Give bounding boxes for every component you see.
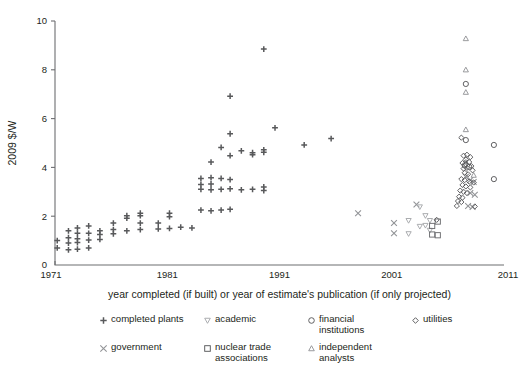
data-point: [454, 203, 459, 208]
data-point: [406, 232, 411, 237]
legend-row-1: completed plants academic financial inst…: [96, 314, 516, 335]
legend-item-academic[interactable]: academic: [200, 314, 304, 326]
data-point: [272, 125, 278, 131]
data-point: [198, 182, 204, 188]
data-point: [355, 210, 361, 216]
legend-item-nuclear-trade-associations[interactable]: nuclear trade associations: [200, 342, 304, 363]
x-tick-label: 1971: [40, 269, 61, 280]
x-tick-label: 2001: [381, 269, 402, 280]
data-point: [218, 186, 224, 192]
data-point: [155, 220, 161, 226]
data-point: [227, 131, 233, 137]
data-point: [471, 173, 476, 178]
x-glyph: [98, 343, 109, 354]
data-point: [110, 220, 116, 226]
triangle-down-glyph: [202, 315, 213, 326]
data-point: [167, 210, 173, 216]
data-point: [189, 225, 195, 231]
data-point: [430, 223, 435, 228]
data-point: [491, 142, 496, 147]
legend-label: academic: [215, 314, 256, 325]
data-point: [423, 223, 428, 228]
data-point: [167, 226, 173, 232]
data-point: [463, 90, 468, 95]
data-point: [417, 224, 422, 229]
data-point: [218, 144, 224, 150]
data-point: [227, 177, 233, 183]
data-point: [328, 136, 334, 142]
data-point: [227, 93, 233, 99]
data-point: [178, 224, 184, 230]
diamond-shape: [413, 318, 419, 324]
triangle-up-shape: [309, 346, 315, 351]
data-point: [463, 67, 468, 72]
data-point: [301, 142, 307, 148]
x-axis-title: year completed (if built) or year of est…: [108, 288, 451, 300]
data-point: [463, 127, 468, 132]
legend-inner: completed plants academic financial inst…: [96, 314, 516, 370]
plus-shape: [100, 317, 106, 323]
data-point: [110, 231, 116, 237]
data-point: [250, 186, 256, 192]
series-government: [355, 174, 478, 236]
x-shape: [100, 345, 106, 351]
data-point: [124, 228, 130, 234]
circle-icon: [304, 314, 319, 326]
legend-item-financial-institutions[interactable]: financial institutions: [304, 314, 408, 335]
data-point: [227, 206, 233, 212]
legend-label: completed plants: [111, 314, 184, 325]
y-tick-label: 4: [42, 162, 47, 173]
data-point: [66, 228, 72, 234]
data-point: [75, 225, 81, 231]
data-point: [198, 175, 204, 181]
legend-item-utilities[interactable]: utilities: [408, 314, 508, 326]
data-point: [75, 236, 81, 242]
plus-glyph: [98, 315, 109, 326]
data-point: [463, 81, 468, 86]
data-point: [463, 36, 468, 41]
data-point: [86, 237, 92, 243]
y-tick-label: 10: [36, 15, 47, 26]
data-point: [66, 240, 72, 246]
data-point: [137, 220, 143, 226]
data-point: [208, 175, 214, 181]
series-completed-plants: [54, 46, 334, 253]
data-point: [218, 207, 224, 213]
legend-item-government[interactable]: government: [96, 342, 200, 354]
x-tick-label: 2011: [498, 269, 518, 280]
square-glyph: [202, 343, 213, 354]
triangle-up-icon: [304, 342, 319, 354]
triangle-down-shape: [205, 318, 211, 323]
axis-lines: [55, 21, 504, 265]
data-point: [155, 226, 161, 232]
legend-item-independent-analysts[interactable]: independent analysts: [304, 342, 408, 363]
data-point: [218, 175, 224, 181]
data-point: [208, 159, 214, 165]
legend-label: nuclear trade associations: [215, 342, 271, 363]
y-tick-label: 6: [42, 113, 47, 124]
data-point: [491, 177, 496, 182]
data-point: [417, 205, 422, 210]
data-point: [198, 207, 204, 213]
square-icon: [200, 342, 215, 354]
axes: [51, 21, 504, 265]
data-point: [208, 187, 214, 193]
circle-shape: [309, 318, 315, 324]
data-point: [427, 219, 432, 224]
legend-item-completed-plants[interactable]: completed plants: [96, 314, 200, 326]
data-point: [75, 230, 81, 236]
diamond-icon: [408, 314, 423, 326]
axis-labels: 024681019711981199120012011year complete…: [6, 15, 518, 300]
data-point: [66, 235, 72, 241]
triangle-down-icon: [200, 314, 215, 326]
data-point: [468, 185, 473, 190]
data-point: [391, 220, 397, 226]
data-point: [86, 245, 92, 251]
data-point: [261, 46, 267, 52]
data-point: [227, 186, 233, 192]
data-points: [54, 36, 496, 253]
series-academic: [406, 205, 433, 237]
data-point: [86, 223, 92, 229]
data-point: [208, 181, 214, 187]
scatter-plot-svg: 024681019711981199120012011year complete…: [0, 0, 528, 300]
